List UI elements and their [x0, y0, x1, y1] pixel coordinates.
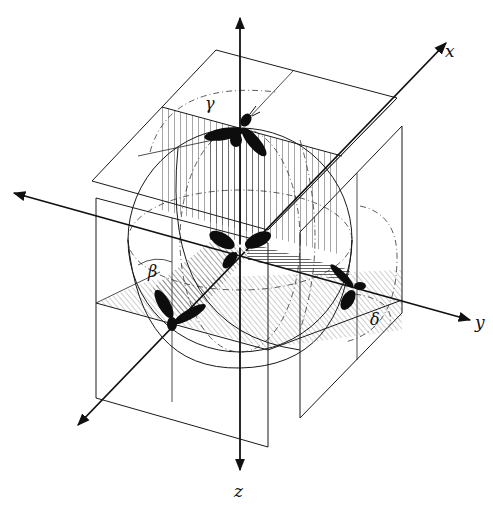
- orientation-diagram: x y z γ β δ: [0, 0, 493, 506]
- x-axis-label: x: [445, 43, 455, 60]
- vertical-projection-lines: [208, 140, 266, 240]
- diagram-canvas: [0, 0, 493, 506]
- gamma-angle-label: γ: [205, 96, 215, 112]
- horizontal-mid-plane: [96, 270, 402, 350]
- z-axis-label: z: [234, 483, 243, 500]
- delta-angle-label: δ: [370, 312, 380, 328]
- beta-angle-label: β: [148, 264, 157, 280]
- y-axis-label: y: [475, 314, 485, 331]
